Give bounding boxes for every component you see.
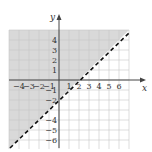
inequality-graph: xy−4−3−2−11234564321−1−2−4−5−6 bbox=[0, 0, 152, 152]
x-tick-label: 6 bbox=[116, 82, 121, 91]
y-tick-label: 1 bbox=[52, 66, 57, 75]
y-tick-label: −5 bbox=[45, 126, 57, 135]
x-tick-label: 5 bbox=[106, 82, 111, 91]
y-tick-label: −1 bbox=[45, 86, 57, 95]
x-axis-label: x bbox=[142, 83, 147, 93]
y-tick-label: 4 bbox=[52, 36, 57, 45]
y-axis-label: y bbox=[49, 12, 56, 22]
y-tick-label: 2 bbox=[52, 56, 57, 65]
x-tick-label: 4 bbox=[96, 82, 101, 91]
y-tick-label: −6 bbox=[45, 136, 57, 145]
x-axis-arrow-icon bbox=[140, 78, 146, 83]
y-tick-label: 3 bbox=[52, 46, 57, 55]
y-axis-arrow-icon bbox=[57, 14, 62, 20]
y-tick-label: −4 bbox=[45, 116, 57, 125]
x-tick-label: 3 bbox=[86, 82, 91, 91]
